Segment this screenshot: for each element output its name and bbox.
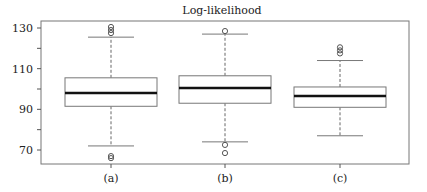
iqr-box [179, 76, 271, 103]
outlier-point [222, 150, 227, 155]
y-axis: 7090110130 [12, 22, 41, 157]
x-tick-label: (c) [333, 172, 348, 185]
boxes [65, 24, 386, 160]
x-tick-label: (a) [103, 172, 118, 185]
chart-container: Log-likelihood 7090110130 (a)(b)(c) [0, 0, 427, 192]
box-c [294, 45, 386, 136]
y-tick-label: 70 [19, 144, 33, 157]
y-tick-label: 90 [19, 103, 33, 116]
x-tick-label: (b) [217, 172, 233, 185]
x-axis: (a)(b)(c) [103, 164, 347, 185]
y-tick-label: 110 [12, 63, 33, 76]
box-b [179, 28, 271, 155]
y-tick-label: 130 [12, 22, 33, 35]
chart-title: Log-likelihood [182, 4, 261, 17]
box-plot: Log-likelihood 7090110130 (a)(b)(c) [0, 0, 427, 192]
box-a [65, 24, 157, 160]
outlier-point [222, 28, 227, 33]
outlier-point [222, 142, 227, 147]
